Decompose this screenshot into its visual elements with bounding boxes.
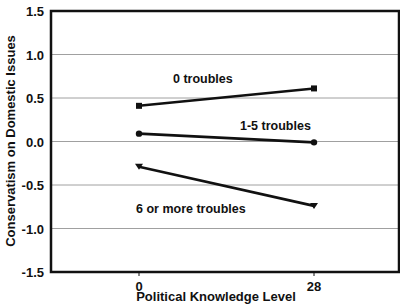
y-tick-label: -0.5 (22, 178, 44, 193)
square-marker-icon (136, 103, 142, 109)
circle-marker-icon (311, 139, 317, 145)
y-tick-label: 1.0 (26, 48, 44, 63)
x-axis-title: Political Knowledge Level (136, 289, 296, 304)
y-tick-label: 0.5 (26, 91, 44, 106)
line-chart: 1.51.00.50.0-0.5-1.0-1.5 028 0 troubles … (0, 0, 400, 305)
y-tick-label: -1.5 (22, 265, 44, 280)
label-1-5-troubles: 1-5 troubles (240, 119, 311, 133)
circle-marker-icon (136, 130, 142, 136)
series-0 (136, 85, 317, 108)
series-line (139, 167, 314, 206)
y-tick-label: -1.0 (22, 222, 44, 237)
x-tick-label: 28 (307, 279, 321, 294)
label-6-or-more-troubles: 6 or more troubles (136, 202, 246, 216)
data-series (135, 85, 318, 208)
label-0-troubles: 0 troubles (173, 72, 233, 86)
y-axis-ticks: 1.51.00.50.0-0.5-1.0-1.5 (22, 4, 44, 280)
y-axis-title: Conservatism on Domestic Issues (3, 35, 18, 247)
square-marker-icon (311, 85, 317, 91)
y-tick-label: 0.0 (26, 135, 44, 150)
series-line (139, 88, 314, 105)
series-line (139, 134, 314, 143)
y-tick-label: 1.5 (26, 4, 44, 19)
